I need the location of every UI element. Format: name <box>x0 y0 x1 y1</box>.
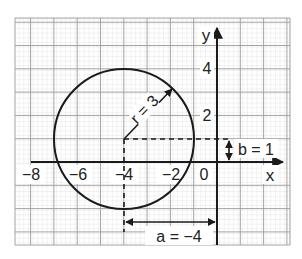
a-label: a = −4 <box>156 228 201 245</box>
graph-paper <box>15 18 290 245</box>
x-tick-label: −8 <box>22 166 40 183</box>
b-label: b = 1 <box>238 141 274 158</box>
x-axis-label: x <box>266 166 275 185</box>
x-tick-label: −6 <box>69 166 87 183</box>
y-axis-label: y <box>202 26 211 45</box>
circle-diagram: −8 −6 −4 −2 0 4 2 y x r = 3 b = 1 a = −4 <box>0 0 302 259</box>
y-tick-label: 2 <box>203 107 212 124</box>
x-tick-label: −2 <box>162 166 180 183</box>
y-tick-label: 4 <box>203 60 212 77</box>
x-tick-label: 0 <box>200 166 209 183</box>
